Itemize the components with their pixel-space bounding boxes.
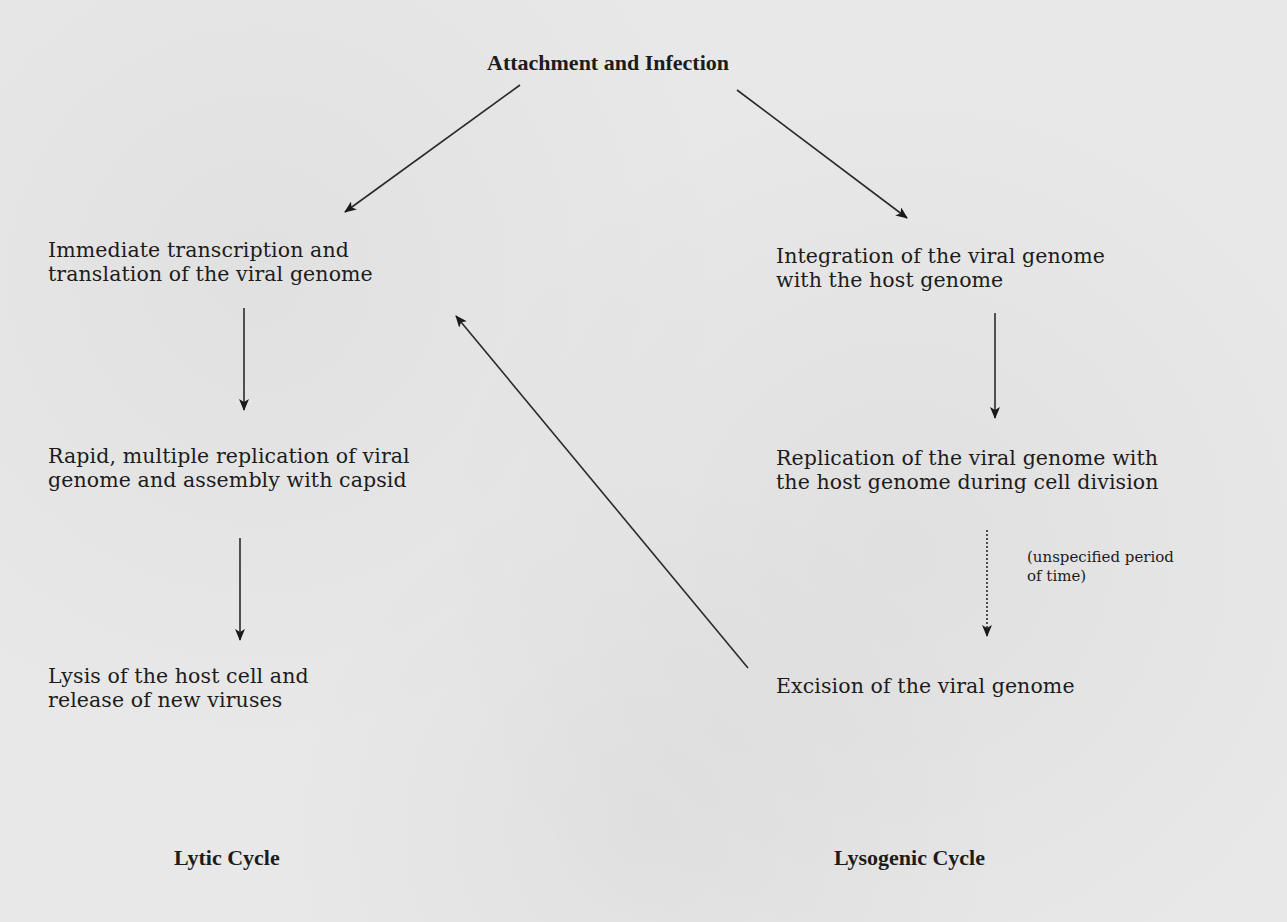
node-line: release of new viruses [48,688,309,712]
lysogenic-cycle-label: Lysogenic Cycle [834,845,985,871]
time-period-note: (unspecified period of time) [1027,548,1174,586]
node-line: with the host genome [776,268,1105,292]
node-line: Integration of the viral genome [776,244,1105,268]
note-line: (unspecified period [1027,548,1174,567]
node-line: Rapid, multiple replication of viral [48,444,410,468]
node-line: Lysis of the host cell and [48,664,309,688]
arrow-excision-to-lytic [456,316,748,668]
root-node-attachment: Attachment and Infection [487,50,729,76]
node-line: the host genome during cell division [776,470,1159,494]
node-line: translation of the viral genome [48,262,373,286]
lysogenic-step-excision: Excision of the viral genome [776,674,1075,698]
node-line: genome and assembly with capsid [48,468,410,492]
node-line: Immediate transcription and [48,238,373,262]
note-line: of time) [1027,567,1174,586]
node-line: Excision of the viral genome [776,674,1075,698]
lytic-step-transcription: Immediate transcription and translation … [48,238,373,286]
lysogenic-step-integration: Integration of the viral genome with the… [776,244,1105,292]
lytic-step-replication: Rapid, multiple replication of viral gen… [48,444,410,492]
arrow-root-to-lytic [345,85,520,212]
lytic-step-lysis: Lysis of the host cell and release of ne… [48,664,309,712]
lysogenic-step-replication: Replication of the viral genome with the… [776,446,1159,494]
lytic-cycle-label: Lytic Cycle [174,845,280,871]
arrow-root-to-lysogenic [737,90,907,218]
node-line: Replication of the viral genome with [776,446,1159,470]
